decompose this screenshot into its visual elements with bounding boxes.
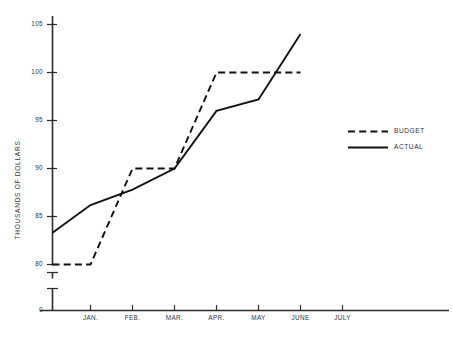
y-tick-label-80: 80 [35,260,43,267]
y-tick-label-95: 95 [35,116,43,123]
line-chart: 105 100 95 90 85 80 0 THOUSANDS OF DOLLA… [0,0,453,342]
y-tick-label-0: 0 [39,306,43,313]
chart-legend: BUDGET ACTUAL [348,127,425,150]
y-tick-label-105: 105 [31,20,43,27]
x-tick-label-jan: JAN. [83,314,98,321]
series-line-actual [53,34,301,233]
legend-label-actual: ACTUAL [394,143,423,150]
y-axis-title: THOUSANDS OF DOLLARS [14,140,21,239]
x-tick-label-june: JUNE [291,314,309,321]
x-axis-ticks [91,305,343,310]
x-tick-label-apr: APR. [208,314,224,321]
x-tick-label-july: JULY [334,314,351,321]
legend-label-budget: BUDGET [394,127,425,134]
y-tick-label-85: 85 [35,212,43,219]
series-line-budget [53,73,301,265]
y-tick-label-100: 100 [31,68,43,75]
x-tick-label-may: MAY [251,314,266,321]
y-tick-label-90: 90 [35,164,43,171]
x-tick-label-mar: MAR. [166,314,183,321]
x-tick-label-feb: FEB. [125,314,141,321]
chart-container: 105 100 95 90 85 80 0 THOUSANDS OF DOLLA… [0,0,453,342]
